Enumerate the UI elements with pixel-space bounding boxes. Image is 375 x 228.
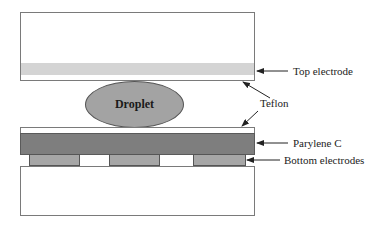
teflon-bottom-arrow	[242, 111, 258, 126]
top-electrode-label: Top electrode	[293, 66, 353, 77]
parylene-label: Parylene C	[293, 138, 342, 149]
teflon-label: Teflon	[260, 98, 289, 109]
annotation-arrows	[0, 0, 375, 228]
teflon-top-arrow	[243, 82, 270, 98]
bottom-electrodes-label: Bottom electrodes	[284, 155, 364, 166]
